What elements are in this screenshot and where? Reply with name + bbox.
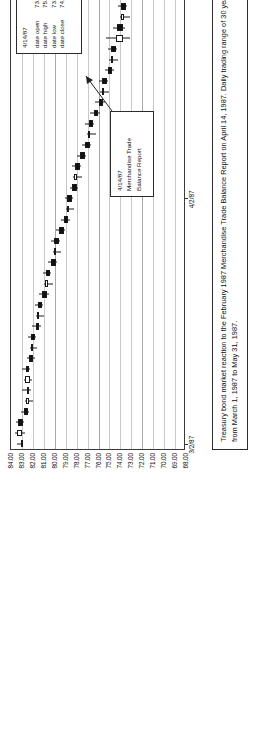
candle (11, 440, 186, 447)
caption-line-1: Treasury bond market reaction to the Feb… (218, 0, 229, 442)
candle-body (117, 24, 124, 31)
candle (11, 110, 186, 117)
candle-body (26, 398, 28, 405)
candle (11, 163, 186, 170)
candle-body (108, 67, 112, 74)
callout-event-line3: Balance Report (134, 117, 143, 191)
rotated-figure-canvas: 84.0083.0082.0081.0080.0079.0078.0077.00… (0, 0, 261, 484)
value-date-close: 74.41 (58, 0, 67, 8)
x-tick-label: 4/2/87 (188, 190, 195, 208)
candle (11, 56, 186, 63)
y-tick-label: 76.00 (94, 453, 101, 469)
candle (11, 280, 186, 287)
value-date-high: 75.31 (41, 0, 50, 8)
y-tick-label: 72.00 (138, 453, 145, 469)
figure-page: 84.0083.0082.0081.0080.0079.0078.0077.00… (0, 0, 261, 745)
candle-body (26, 366, 29, 373)
candle-body (85, 142, 89, 149)
callout-ohlc-row-low: date low73.16 (50, 0, 59, 48)
candle-body (37, 312, 39, 319)
value-date-low: 73.16 (50, 0, 59, 8)
callout-ohlc-row-open: date open73.72 (33, 0, 42, 48)
y-tick-label: 73.00 (127, 453, 134, 469)
y-tick-label: 68.00 (182, 453, 189, 469)
candle (11, 216, 186, 223)
callout-event-date: 4/14/87 (115, 117, 124, 191)
candle (11, 387, 186, 394)
candlestick-chart-plot-area[interactable] (10, 0, 185, 450)
candle-body (99, 99, 103, 106)
candle (11, 248, 186, 255)
candle-body (31, 334, 35, 341)
callout-ohlc-row-high: date high75.31 (41, 0, 50, 48)
candle (11, 398, 186, 405)
candle-body (21, 440, 23, 447)
candle-body (38, 302, 42, 309)
candle-body (64, 216, 68, 223)
y-tick-label: 80.00 (50, 453, 57, 469)
candle-body (111, 56, 113, 63)
candle-body (31, 344, 34, 351)
x-tick-label: 3/2/87 (188, 436, 195, 454)
candle (11, 334, 186, 341)
candle-body (27, 387, 29, 394)
candle (11, 259, 186, 266)
candle (11, 355, 186, 362)
label-date-high: date high (41, 8, 50, 48)
y-tick-label: 84.00 (7, 453, 14, 469)
candle-body (80, 152, 84, 159)
candle (11, 238, 186, 245)
candle (11, 419, 186, 426)
y-tick-label: 69.00 (171, 453, 178, 469)
figure-caption-box: Treasury bond market reaction to the Feb… (212, 0, 248, 450)
candle-body (67, 195, 71, 202)
y-tick-label: 77.00 (83, 453, 90, 469)
candle-body (54, 238, 58, 245)
candle (11, 120, 186, 127)
candle (11, 174, 186, 181)
candle-body (67, 206, 69, 213)
y-tick-label: 71.00 (149, 453, 156, 469)
label-date-close: date close (58, 8, 67, 48)
y-tick-label: 78.00 (72, 453, 79, 469)
candle (11, 78, 186, 85)
candle-body (18, 419, 23, 426)
candle-body (121, 14, 124, 21)
value-date-open: 73.72 (33, 0, 42, 8)
candle (11, 206, 186, 213)
candle (11, 142, 186, 149)
candle-body (102, 78, 107, 85)
candle-body (25, 376, 29, 383)
x-axis-dates: 3/2/874/2/875/2/87 (188, 0, 202, 450)
label-date-open: date open (33, 8, 42, 48)
y-tick-label: 74.00 (116, 453, 123, 469)
y-tick-label: 79.00 (61, 453, 68, 469)
candle (11, 67, 186, 74)
y-tick-label: 81.00 (39, 453, 46, 469)
candle (11, 184, 186, 191)
label-date-low: date low (50, 8, 59, 48)
candle (11, 270, 186, 277)
candle (11, 366, 186, 373)
callout-event-box[interactable]: 4/14/87 Merchandise Trade Balance Report (110, 111, 154, 197)
candle (11, 291, 186, 298)
candle (11, 99, 186, 106)
candle (11, 376, 186, 383)
y-axis-price: 84.0083.0082.0081.0080.0079.0078.0077.00… (10, 450, 185, 484)
candle-body (72, 184, 76, 191)
candle-body (51, 259, 56, 266)
candle-body (74, 174, 77, 181)
candle (11, 88, 186, 95)
candle-body (17, 430, 22, 437)
candle-body (121, 3, 126, 10)
candle-body (54, 248, 57, 255)
candle-body (111, 46, 116, 53)
candle-body (59, 227, 63, 234)
candle-body (42, 291, 47, 298)
callout-ohlc-box[interactable]: 4/14/87 date open73.72 date high75.31 da… (16, 0, 82, 54)
candle-body (29, 355, 33, 362)
candle (11, 131, 186, 138)
candle-body (89, 120, 93, 127)
candle (11, 430, 186, 437)
candle (11, 312, 186, 319)
